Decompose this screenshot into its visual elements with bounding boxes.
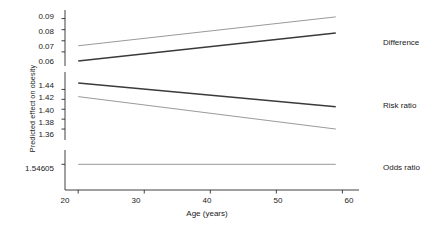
series-line-risk-ratio-lower-light [78, 97, 336, 129]
series-line-risk-ratio-upper-dark [78, 83, 336, 107]
series-line-difference-lower-dark [78, 33, 336, 61]
figure-container: Predicted effect on obesity 0.09 0.08 0.… [0, 0, 439, 238]
axis-ticks [62, 19, 343, 194]
series-line-difference-upper-light [78, 17, 336, 46]
plot-area [0, 0, 439, 238]
data-lines [78, 17, 336, 164]
